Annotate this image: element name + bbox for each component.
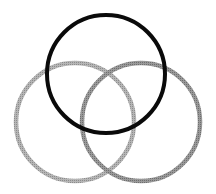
venn-diagram <box>0 0 216 194</box>
venn-svg <box>0 0 216 194</box>
